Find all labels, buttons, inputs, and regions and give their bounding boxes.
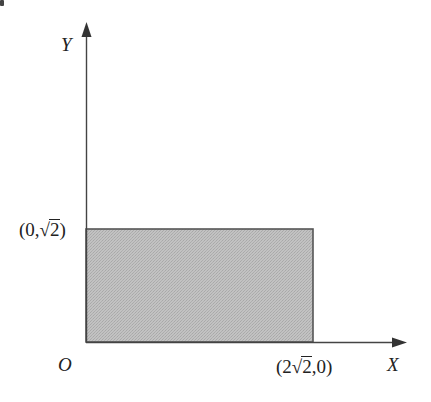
shaded-region	[86, 229, 313, 342]
coord-y: 0	[317, 356, 327, 377]
y-axis-label: Y	[61, 35, 72, 54]
x-axis-label: X	[387, 355, 399, 374]
y-axis-arrow-icon	[82, 22, 92, 37]
paren-close: )	[60, 219, 66, 240]
paren-close: )	[326, 356, 332, 377]
sqrt-expression: √2	[40, 219, 60, 239]
point-label-2sqrt2-0: (2√2,0)	[276, 356, 332, 376]
radicand: 2	[49, 219, 60, 239]
coord-x: 0	[25, 219, 35, 240]
diagram-svg	[0, 0, 431, 402]
origin-label: O	[58, 355, 72, 374]
coordinate-diagram: Y O X (0,√2) (2√2,0)	[0, 0, 431, 402]
radicand: 2	[301, 356, 312, 376]
sqrt-expression: √2	[292, 356, 312, 376]
corner-mark	[0, 0, 4, 6]
point-label-0-sqrt2: (0,√2)	[19, 219, 66, 239]
coefficient: 2	[282, 356, 292, 377]
x-axis-arrow-icon	[392, 338, 407, 348]
